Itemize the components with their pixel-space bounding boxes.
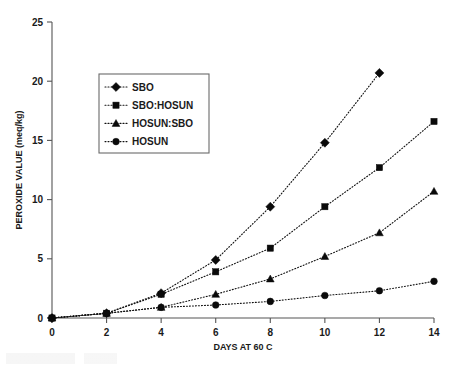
legend-swatch-marker: [113, 138, 120, 145]
series-hosun-sbo: [48, 187, 438, 321]
y-axis-ticks: 0510152025: [32, 17, 52, 324]
data-point: [266, 275, 274, 282]
data-point: [158, 291, 164, 297]
y-axis-title: PEROXIDE VALUE (meq/kg): [14, 111, 24, 230]
series-line-2: [52, 191, 434, 318]
data-point: [322, 204, 328, 210]
data-point: [322, 292, 329, 299]
legend-label: SBO:HOSUN: [132, 100, 193, 111]
data-point: [376, 165, 382, 171]
y-tick-label: 20: [32, 76, 44, 87]
data-point: [212, 302, 219, 309]
data-point: [158, 304, 165, 311]
x-tick-label: 2: [104, 327, 110, 338]
y-tick-label: 10: [32, 194, 44, 205]
data-point: [431, 278, 438, 285]
data-point: [376, 287, 383, 294]
peroxide-value-line-chart: 0510152025 02468101214 PEROXIDE VALUE (m…: [0, 0, 453, 368]
data-point: [431, 118, 437, 124]
legend-label: HOSUN:SBO: [132, 118, 193, 129]
x-axis-ticks: 02468101214: [49, 318, 440, 338]
y-tick-label: 0: [37, 313, 43, 324]
data-point: [321, 253, 329, 260]
page-artifact: [6, 353, 156, 364]
x-axis-title: DAYS AT 60 C: [213, 342, 273, 352]
x-tick-label: 14: [428, 327, 440, 338]
series-sbo: [48, 68, 384, 322]
x-tick-label: 0: [49, 327, 55, 338]
legend-label: HOSUN: [132, 136, 168, 147]
legend-label: SBO: [132, 82, 154, 93]
y-tick-label: 5: [37, 253, 43, 264]
data-point: [103, 310, 110, 317]
data-point: [376, 229, 384, 236]
data-point: [213, 269, 219, 275]
data-point: [267, 245, 273, 251]
x-tick-label: 12: [374, 327, 386, 338]
x-tick-label: 4: [158, 327, 164, 338]
data-point: [375, 68, 384, 77]
x-tick-label: 6: [213, 327, 219, 338]
data-point: [430, 187, 438, 194]
y-tick-label: 25: [32, 17, 44, 28]
x-tick-label: 10: [319, 327, 331, 338]
x-tick-label: 8: [268, 327, 274, 338]
series-hosun: [49, 278, 438, 321]
chart-legend: SBOSBO:HOSUNHOSUN:SBOHOSUN: [99, 74, 209, 153]
chart-figure: 0510152025 02468101214 PEROXIDE VALUE (m…: [0, 0, 453, 368]
data-point: [267, 298, 274, 305]
y-tick-label: 15: [32, 135, 44, 146]
legend-swatch-marker: [113, 102, 119, 108]
data-point: [49, 315, 56, 322]
